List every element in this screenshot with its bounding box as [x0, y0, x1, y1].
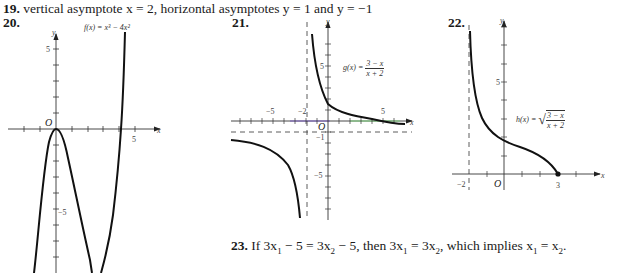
- origin-label-20: O: [45, 117, 52, 128]
- tick-label-21-xneg2: −2: [298, 107, 307, 116]
- y-axis-label-22: y: [499, 16, 504, 25]
- x-axis-label-20: x: [156, 126, 161, 135]
- numerator-g: 3 − x: [365, 59, 384, 69]
- curve-g-left: [231, 140, 300, 218]
- x-axis-label-21: x: [409, 118, 414, 127]
- origin-label-21: O: [318, 121, 325, 132]
- text-seg: , which implies x: [440, 238, 533, 253]
- graph-22: [452, 21, 600, 190]
- graphs-canvas: y x O 5 5 −5: [0, 0, 618, 273]
- tick-label-21-x5: 5: [381, 107, 385, 116]
- curve-g-right: [312, 34, 405, 124]
- y-axis-label-20: y: [51, 28, 56, 37]
- function-name-h: h(x) =: [516, 115, 536, 124]
- endpoint-dot: [555, 171, 560, 176]
- sqrt-sign: √: [538, 112, 546, 127]
- function-label-h: h(x) = √ 3 − x x + 2: [516, 110, 565, 130]
- tick-label-21-y5: 5: [320, 62, 324, 71]
- denominator-h: x + 2: [546, 121, 565, 130]
- function-label-f: f(x) = x³ − 4x²: [84, 23, 130, 32]
- denominator-g: x + 2: [365, 69, 384, 78]
- tick-label-20-yneg5: −5: [58, 208, 67, 217]
- tick-label-21-yneg5: −5: [314, 171, 323, 180]
- text-seg: = 3x: [408, 238, 436, 253]
- text-seg: − 5 = 3x: [282, 238, 331, 253]
- text-seg: If 3x: [251, 238, 277, 253]
- numerator-h: 3 − x: [546, 111, 565, 121]
- function-name-g: g(x) =: [343, 63, 363, 72]
- tick-label-20-x5: 5: [132, 135, 136, 144]
- problem-23: 23. If 3x1 − 5 = 3x2 − 5, then 3x1 = 3x2…: [231, 238, 566, 256]
- tick-label-21-xneg5: −5: [266, 107, 275, 116]
- problem-23-number: 23.: [231, 238, 248, 253]
- tick-label-21-yneg1: −1: [316, 133, 325, 142]
- fraction-h: 3 − x x + 2: [546, 110, 565, 130]
- text-seg: = x: [537, 238, 558, 253]
- x-axis-label-22: x: [600, 171, 605, 180]
- tick-label-22-xneg2: −2: [457, 180, 466, 189]
- text-seg: .: [563, 238, 566, 253]
- origin-label-22: O: [494, 178, 501, 189]
- fraction-g: 3 − x x + 2: [365, 59, 384, 78]
- tick-label-22-x3: 3: [556, 181, 560, 190]
- tick-label-20-y5: 5: [46, 45, 50, 54]
- graph-20: [8, 32, 160, 273]
- tick-label-22-y5: 5: [496, 78, 500, 87]
- curve-f: [34, 32, 125, 273]
- y-axis-label-21: y: [325, 17, 330, 26]
- curve-h: [470, 31, 558, 174]
- text-seg: − 5, then 3x: [335, 238, 403, 253]
- function-label-g: g(x) = 3 − x x + 2: [343, 59, 384, 78]
